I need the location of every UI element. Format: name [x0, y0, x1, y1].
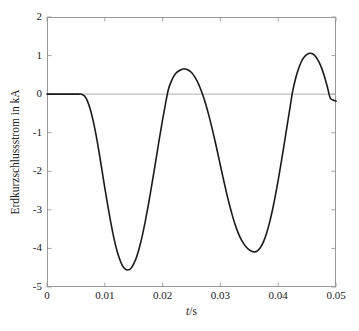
x-tick-label: 0 [17, 290, 77, 301]
y-tick-label: 1 [1, 50, 42, 61]
x-tick-label: 0.01 [75, 290, 135, 301]
tick-marks [47, 17, 336, 287]
y-tick-label: 0 [1, 88, 42, 99]
x-axis-title: t/s [47, 305, 336, 318]
data-series-line [47, 53, 336, 270]
y-tick-label: -2 [1, 165, 42, 176]
x-tick-label: 0.05 [306, 290, 359, 301]
y-tick-label: 2 [1, 11, 42, 22]
x-tick-label: 0.02 [133, 290, 193, 301]
y-tick-label: -4 [1, 242, 42, 253]
x-axis-title-unit: /s [189, 305, 197, 317]
y-tick-label: -3 [1, 204, 42, 215]
plot-canvas [47, 17, 336, 287]
chart-figure: Erdkurzschlussstrom in kA 210-1-2-3-4-5 … [0, 0, 359, 331]
y-tick-label: -1 [1, 127, 42, 138]
x-tick-label: 0.03 [190, 290, 250, 301]
x-tick-label: 0.04 [248, 290, 308, 301]
